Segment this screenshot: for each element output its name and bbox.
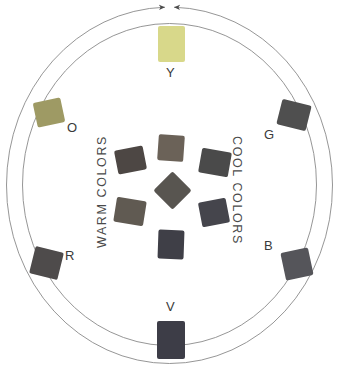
label-V: V: [166, 300, 175, 313]
cool-colors-label: COOL COLORS: [231, 136, 244, 245]
swatch-violet: [157, 321, 185, 359]
inner-swatch-lower-left: [113, 197, 147, 226]
swatch-yellow: [158, 26, 185, 62]
label-G: G: [264, 128, 275, 141]
outer-arc-right: [170, 7, 333, 363]
color-wheel-diagram: Y O G R B V WARM COLORS COOL COLORS: [0, 0, 339, 370]
warm-colors-label: WARM COLORS: [96, 135, 109, 248]
inner-swatch-lower-right: [198, 198, 230, 228]
inner-swatch-bottom: [158, 230, 185, 260]
inner-swatch-upper-right: [198, 148, 232, 178]
label-B: B: [264, 239, 273, 252]
inner-swatch-top: [157, 134, 185, 162]
outer-arc-left: [6, 7, 169, 363]
swatch-blue: [280, 247, 313, 280]
label-O: O: [67, 121, 78, 134]
label-Y: Y: [166, 66, 175, 79]
label-R: R: [65, 249, 75, 262]
